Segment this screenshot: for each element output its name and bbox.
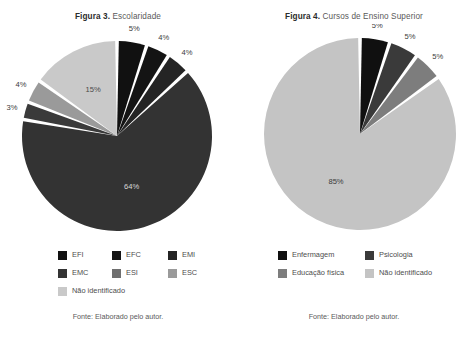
legend-item-label: Psicologia: [379, 251, 413, 258]
legend-item-label: EFI: [72, 251, 84, 258]
legend-item-label: EMI: [182, 251, 195, 258]
pie-slice-label: 5%: [129, 24, 140, 33]
legend-swatch-icon: [365, 251, 374, 260]
pie-chart-cursos: 5%5%5%85%: [236, 24, 472, 240]
pie-slice-label: 4%: [182, 48, 193, 57]
legend-item[interactable]: EFC: [112, 251, 141, 260]
pie-slice-label: 5%: [372, 24, 383, 30]
figure-title-4-text: Cursos de Ensino Superior: [320, 12, 423, 21]
legend-item-label: Não identificado: [72, 287, 125, 294]
pie-slice-label: 4%: [15, 80, 26, 89]
legend-item[interactable]: EMC: [58, 269, 88, 278]
figure-title-3-text: Escolaridade: [110, 12, 161, 21]
figure-title-4-label: Figura 4.: [285, 12, 320, 21]
legend-swatch-icon: [112, 269, 121, 278]
legend-row: EFIEFCEMI: [0, 246, 236, 264]
figure-title-4: Figura 4. Cursos de Ensino Superior: [236, 12, 472, 21]
legend-swatch-icon: [168, 269, 177, 278]
legend-item-label: EMC: [72, 269, 88, 276]
legend-item[interactable]: EMI: [168, 251, 195, 260]
legend-swatch-icon: [278, 269, 287, 278]
legend-item-label: EFC: [126, 251, 141, 258]
legend-item-label: ESI: [126, 269, 138, 276]
legend-item[interactable]: Não identificado: [58, 287, 125, 296]
legend-row: EnfermagemPsicologia: [236, 246, 472, 264]
legend-item[interactable]: EFI: [58, 251, 84, 260]
legend-item-label: Enfermagem: [292, 251, 334, 258]
pie-svg: 5%5%5%85%: [236, 24, 472, 240]
legend-item[interactable]: ESI: [112, 269, 138, 278]
pie-slice-label: 85%: [328, 177, 343, 186]
legend-row: EMCESIESC: [0, 264, 236, 282]
legend-item[interactable]: Enfermagem: [278, 251, 334, 260]
legend-swatch-icon: [112, 251, 121, 260]
legend-swatch-icon: [168, 251, 177, 260]
pie-svg: 5%4%4%64%3%4%15%: [0, 24, 236, 240]
legend-item[interactable]: ESC: [168, 269, 197, 278]
legend-item-label: ESC: [182, 269, 197, 276]
figures-page: Figura 3. Escolaridade 5%4%4%64%3%4%15% …: [0, 0, 472, 338]
figure-title-3: Figura 3. Escolaridade: [0, 12, 236, 21]
legend-swatch-icon: [58, 287, 67, 296]
pie-slice-label: 5%: [432, 52, 443, 61]
figure-title-3-label: Figura 3.: [75, 12, 110, 21]
legend-cursos: EnfermagemPsicologiaEducação físicaNão i…: [236, 246, 472, 282]
legend-row: Não identificado: [0, 282, 236, 300]
legend-escolaridade: EFIEFCEMIEMCESIESCNão identificado: [0, 246, 236, 300]
pie-slice-label: 4%: [158, 33, 169, 42]
pie-chart-escolaridade: 5%4%4%64%3%4%15%: [0, 24, 236, 240]
pie-slice-label: 64%: [124, 182, 139, 191]
pie-slice-label: 5%: [404, 32, 415, 41]
legend-swatch-icon: [58, 269, 67, 278]
legend-item-label: Educação física: [292, 269, 344, 276]
legend-item[interactable]: Não identificado: [365, 269, 432, 278]
figure-source-4: Fonte: Elaborado pelo autor.: [236, 312, 472, 321]
pie-slice-label: 15%: [85, 85, 100, 94]
legend-swatch-icon: [278, 251, 287, 260]
legend-swatch-icon: [365, 269, 374, 278]
pie-slice-label: 3%: [6, 103, 17, 112]
figure-panel-escolaridade: Figura 3. Escolaridade 5%4%4%64%3%4%15% …: [0, 0, 236, 338]
legend-item[interactable]: Educação física: [278, 269, 344, 278]
figure-panel-cursos: Figura 4. Cursos de Ensino Superior 5%5%…: [236, 0, 472, 338]
legend-item-label: Não identificado: [379, 269, 432, 276]
figure-source-3: Fonte: Elaborado pelo autor.: [0, 312, 236, 321]
legend-row: Educação físicaNão identificado: [236, 264, 472, 282]
legend-item[interactable]: Psicologia: [365, 251, 413, 260]
legend-swatch-icon: [58, 251, 67, 260]
